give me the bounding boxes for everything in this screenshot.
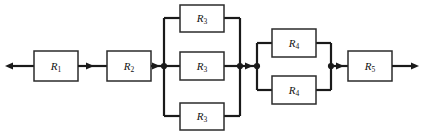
right-terminal-arrow-icon — [411, 63, 419, 70]
junction-dot-r4-left — [254, 63, 260, 69]
left-terminal-arrow-icon — [5, 63, 13, 70]
parallel-bank-r3: R3 R3 R3 — [164, 5, 240, 130]
resistor-r2: R2 — [107, 51, 151, 81]
circuit-diagram: R1 R2 R3 R3 — [0, 0, 424, 135]
marker-after-r1-icon — [86, 63, 94, 70]
marker-after-r2-icon — [152, 63, 160, 70]
parallel-bank-r4: R4 R4 — [257, 29, 331, 104]
right-terminal — [392, 63, 419, 70]
resistor-r5: R5 — [348, 51, 392, 81]
circuit-canvas: R1 R2 R3 R3 — [0, 0, 424, 135]
junction-dot-r3-right — [237, 63, 243, 69]
resistor-r1: R1 — [34, 51, 78, 81]
left-terminal — [5, 63, 34, 70]
marker-before-r5-icon — [336, 63, 344, 70]
junction-dot-r4-right — [328, 63, 334, 69]
marker-between-groups-icon — [245, 63, 253, 70]
junction-dot-after-r2 — [161, 63, 167, 69]
